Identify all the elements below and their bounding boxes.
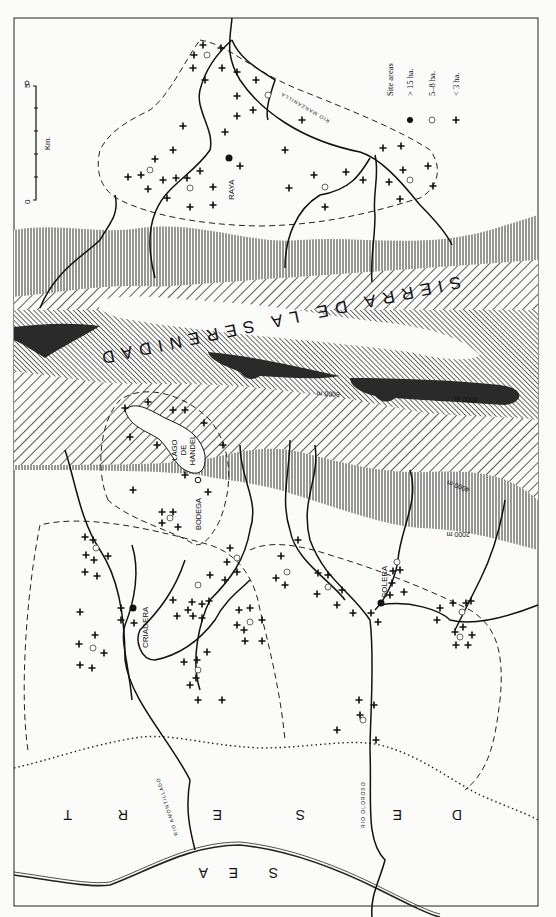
river-label-oloroso: RIO OLOROSO bbox=[360, 781, 366, 828]
site-raya bbox=[226, 155, 233, 162]
svg-text:HANDEL: HANDEL bbox=[188, 435, 197, 465]
svg-text:E: E bbox=[229, 865, 238, 881]
site-distribution-map: SIERRA DE LA SERENIDAD 8000 m 6000 m 400… bbox=[0, 0, 556, 917]
settlement-label-raya: RAYA bbox=[227, 179, 236, 200]
scale-max-label: 5 bbox=[23, 83, 32, 88]
svg-text:T: T bbox=[63, 807, 72, 823]
svg-text:S: S bbox=[296, 807, 305, 823]
legend-title: Site areas bbox=[385, 63, 395, 96]
scale-unit-label: Km. bbox=[43, 137, 52, 150]
svg-text:S: S bbox=[269, 865, 278, 881]
svg-text:LAGO: LAGO bbox=[170, 439, 179, 460]
contour-label-2000: 2000 m bbox=[446, 531, 470, 538]
settlement-label-bodega: BODEGA bbox=[194, 498, 203, 530]
svg-text:E: E bbox=[393, 807, 402, 823]
legend-open-circle-icon bbox=[429, 117, 435, 123]
site-bodega bbox=[195, 477, 201, 483]
legend-label-small: < 3 ha. bbox=[451, 73, 461, 96]
svg-text:DE: DE bbox=[179, 445, 188, 455]
legend-label-large: > 15 ha. bbox=[405, 68, 415, 96]
svg-text:R: R bbox=[118, 807, 128, 823]
contour-label-6000: 6000 m bbox=[316, 390, 340, 398]
scale-min-label: 0 bbox=[23, 199, 32, 204]
legend-filled-circle-icon bbox=[407, 117, 413, 123]
svg-text:A: A bbox=[198, 865, 208, 881]
settlement-label-criadera: CRIADERA bbox=[141, 606, 150, 648]
site-solera bbox=[378, 600, 385, 607]
settlement-label-solera: SOLERA bbox=[380, 565, 389, 598]
svg-text:D: D bbox=[452, 807, 462, 823]
site-criadera bbox=[130, 605, 137, 612]
legend-label-medium: 5–8 ha. bbox=[427, 71, 437, 96]
svg-text:E: E bbox=[213, 807, 222, 823]
